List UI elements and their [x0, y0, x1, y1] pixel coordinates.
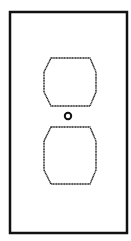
lower-receptacle-outline — [44, 127, 96, 184]
cover-plate-outline — [10, 12, 127, 233]
upper-receptacle-outline — [44, 58, 96, 106]
outlet-cover-plate-drawing — [0, 0, 131, 241]
mounting-screw-icon — [65, 113, 71, 119]
